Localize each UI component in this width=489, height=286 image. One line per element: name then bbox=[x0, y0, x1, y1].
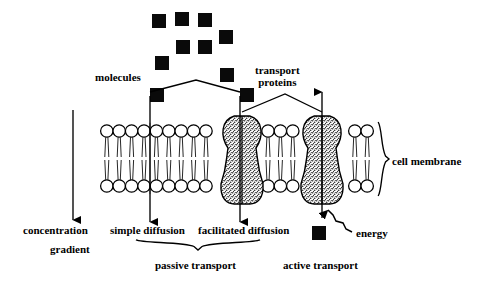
phospholipid-tail bbox=[179, 160, 180, 180]
label-molecules: molecules bbox=[95, 71, 141, 83]
phospholipid-tail bbox=[130, 137, 131, 157]
phospholipid-tail bbox=[353, 160, 354, 180]
phospholipid-tail bbox=[368, 160, 369, 180]
phospholipid-tail bbox=[120, 137, 121, 157]
phospholipid-tail bbox=[117, 160, 118, 180]
phospholipid-head bbox=[138, 180, 150, 192]
phospholipid-tail bbox=[192, 160, 193, 180]
phospholipid-tail bbox=[145, 137, 146, 157]
phospholipid-head bbox=[361, 125, 373, 137]
diagram-canvas: molecules transport proteins cell membra… bbox=[0, 0, 489, 286]
phospholipid-head bbox=[361, 180, 373, 192]
phospholipid-tail bbox=[291, 137, 292, 157]
phospholipid-tail bbox=[365, 137, 366, 157]
phospholipid-tail bbox=[170, 160, 171, 180]
phospholipid-head bbox=[138, 125, 150, 137]
phospholipid-tail bbox=[192, 137, 193, 157]
phospholipid-tail bbox=[182, 137, 183, 157]
molecule-square bbox=[220, 68, 234, 82]
phospholipid-head bbox=[187, 125, 199, 137]
phospholipid-tail bbox=[167, 137, 168, 157]
phospholipid-tail bbox=[154, 160, 155, 180]
phospholipid-head bbox=[113, 180, 125, 192]
phospholipid-tail bbox=[108, 160, 109, 180]
cell-membrane-brace bbox=[378, 122, 389, 196]
phospholipid-tail bbox=[282, 160, 283, 180]
phospholipid-tail bbox=[142, 160, 143, 180]
phospholipid-tail bbox=[266, 160, 267, 180]
phospholipid-head bbox=[125, 180, 137, 192]
phospholipid-tail bbox=[266, 137, 267, 157]
molecule-square bbox=[176, 40, 190, 54]
phospholipid-tail bbox=[120, 160, 121, 180]
label-energy: energy bbox=[356, 227, 388, 239]
phospholipid-head bbox=[349, 125, 361, 137]
phospholipid-tail bbox=[145, 160, 146, 180]
phospholipid-tail bbox=[158, 137, 159, 157]
phospholipid-tail bbox=[207, 160, 208, 180]
phospholipid-tail bbox=[269, 137, 270, 157]
phospholipid-head bbox=[150, 180, 162, 192]
phospholipid-head bbox=[163, 180, 175, 192]
phospholipid-tail bbox=[105, 137, 106, 157]
phospholipid-head bbox=[200, 125, 212, 137]
phospholipid-head bbox=[287, 125, 299, 137]
molecule-square bbox=[198, 40, 212, 54]
label-transport-proteins-line2: proteins bbox=[255, 76, 300, 88]
phospholipid-tail bbox=[207, 137, 208, 157]
phospholipid-tail bbox=[167, 160, 168, 180]
phospholipid-tail bbox=[158, 160, 159, 180]
molecule-square bbox=[155, 56, 169, 70]
phospholipid-head bbox=[349, 180, 361, 192]
phospholipid-tail bbox=[133, 137, 134, 157]
phospholipid-tail bbox=[204, 160, 205, 180]
label-gradient: gradient bbox=[50, 243, 90, 255]
phospholipid-tail bbox=[130, 160, 131, 180]
passive-transport-brace bbox=[136, 240, 260, 250]
phospholipid-head bbox=[200, 180, 212, 192]
phospholipid-head bbox=[187, 180, 199, 192]
phospholipid-tail bbox=[356, 137, 357, 157]
phospholipid-tail bbox=[195, 160, 196, 180]
phospholipid-tail bbox=[368, 137, 369, 157]
phospholipid-head bbox=[175, 180, 187, 192]
phospholipid-tail bbox=[170, 137, 171, 157]
phospholipid-tail bbox=[108, 137, 109, 157]
label-transport-proteins: transport proteins bbox=[255, 64, 300, 88]
label-cell-membrane: cell membrane bbox=[392, 155, 461, 167]
molecule-square bbox=[219, 30, 233, 44]
phospholipid-head bbox=[262, 125, 274, 137]
label-transport-proteins-line1: transport bbox=[255, 64, 300, 76]
phospholipid-tail bbox=[204, 137, 205, 157]
phospholipid-head bbox=[150, 125, 162, 137]
phospholipid-tail bbox=[294, 137, 295, 157]
label-active-transport: active transport bbox=[283, 259, 358, 271]
phospholipid-tail bbox=[291, 160, 292, 180]
phospholipid-head bbox=[163, 125, 175, 137]
phospholipid-tail bbox=[282, 137, 283, 157]
phospholipid-tail bbox=[269, 160, 270, 180]
phospholipid-tail bbox=[294, 160, 295, 180]
phospholipid-tail bbox=[278, 137, 279, 157]
phospholipid-tail bbox=[195, 137, 196, 157]
label-simple-diffusion: simple diffusion bbox=[110, 224, 185, 236]
label-passive-transport: passive transport bbox=[155, 259, 236, 271]
phospholipid-tail bbox=[356, 160, 357, 180]
molecule-square bbox=[175, 12, 189, 26]
phospholipid-head bbox=[101, 125, 113, 137]
phospholipid-tail bbox=[179, 137, 180, 157]
phospholipid-tail bbox=[142, 137, 143, 157]
energy-arrow bbox=[328, 210, 352, 232]
phospholipid-tail bbox=[278, 160, 279, 180]
molecule-square-energy bbox=[312, 226, 326, 240]
molecule-square bbox=[152, 14, 166, 28]
phospholipid-tail bbox=[353, 137, 354, 157]
phospholipid-head bbox=[274, 125, 286, 137]
phospholipid-tail bbox=[105, 160, 106, 180]
phospholipid-head bbox=[101, 180, 113, 192]
phospholipid-head bbox=[287, 180, 299, 192]
phospholipid-tail bbox=[154, 137, 155, 157]
phospholipid-tail bbox=[117, 137, 118, 157]
phospholipid-head bbox=[125, 125, 137, 137]
label-concentration: concentration bbox=[23, 224, 88, 236]
